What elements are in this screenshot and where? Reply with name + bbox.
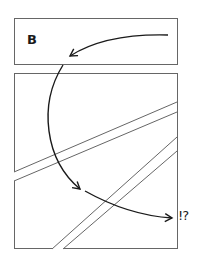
panel-label: B [27, 32, 37, 47]
arrow-2-icon [48, 65, 80, 189]
arrow-1-icon [70, 35, 168, 56]
exclamation-annotation: !? [178, 208, 188, 223]
panel-top [15, 19, 178, 65]
